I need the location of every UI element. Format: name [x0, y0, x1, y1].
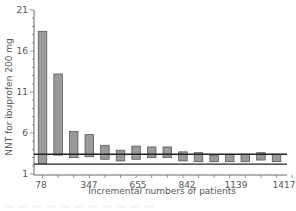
figure-caption-cropped	[4, 205, 154, 208]
y-tick-label: 11	[17, 87, 28, 97]
range-bar	[163, 147, 172, 158]
range-bar	[210, 155, 219, 162]
y-tick-label: 16	[17, 46, 29, 56]
range-bar	[101, 145, 110, 159]
range-bar	[85, 135, 94, 157]
range-bar	[38, 31, 47, 163]
range-bar	[179, 152, 188, 161]
x-tick-label: 78	[35, 180, 47, 190]
x-axis-title: Incremental numbers of patients	[88, 186, 236, 196]
x-tick-label: 1417	[273, 180, 296, 190]
y-tick-label: 6	[22, 128, 28, 138]
range-bar	[54, 74, 63, 155]
y-axis-title: NNT for ibuprofen 200 mg	[4, 38, 14, 156]
range-bar	[147, 147, 156, 158]
y-tick-label: 1	[22, 169, 28, 179]
y-axis: 16111621	[17, 5, 34, 179]
range-bar	[116, 150, 125, 161]
range-bar	[225, 154, 234, 161]
range-bar	[241, 154, 250, 161]
range-bar	[132, 146, 141, 159]
y-tick-label: 21	[17, 5, 28, 15]
nnt-chart: 16111621 7834765584211391417 NNT for ibu…	[0, 0, 296, 211]
bars	[38, 31, 281, 163]
range-bar	[272, 154, 281, 161]
